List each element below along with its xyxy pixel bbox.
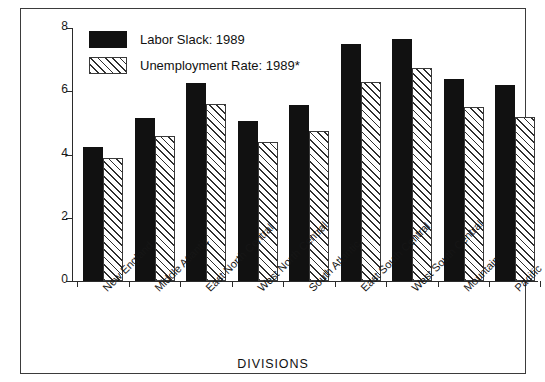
legend-label: Unemployment Rate: 1989* [140, 58, 300, 73]
diagonal-hatch-swatch [89, 57, 127, 74]
x-tick-mark [540, 281, 541, 287]
bar-unemployment-rate [103, 158, 123, 281]
x-axis-title: DIVISIONS [21, 357, 525, 371]
x-tick-mark [335, 281, 336, 287]
category-label: East South Central [359, 286, 367, 294]
y-tick: 8 [72, 28, 73, 29]
y-tick-label: 0 [61, 273, 68, 285]
x-tick-mark [129, 281, 130, 287]
x-tick-mark [232, 281, 233, 287]
y-tick: 4 [72, 155, 73, 156]
legend-item: Labor Slack: 1989 [89, 29, 339, 50]
category-label: Middle Atlantic [153, 286, 161, 294]
cropped-caption-sliver [0, 0, 545, 7]
legend-label: Labor Slack: 1989 [140, 32, 245, 47]
x-tick-mark [283, 281, 284, 287]
y-tick: 2 [72, 218, 73, 219]
bar-unemployment-rate [464, 107, 484, 281]
chart-legend: Labor Slack: 1989Unemployment Rate: 1989… [89, 29, 339, 81]
y-tick-label: 4 [61, 147, 68, 159]
bar-unemployment-rate [412, 68, 432, 281]
category-label: Pacific [513, 286, 521, 294]
bar-chart-figure: 02468 New EnglandMiddle AtlanticEast Nor… [0, 0, 545, 382]
bar-labor-slack [83, 147, 103, 281]
category-label: West North Central [256, 286, 264, 294]
category-label: New England [101, 286, 109, 294]
solid-black-swatch [89, 31, 127, 48]
bar-unemployment-rate [206, 104, 226, 281]
y-tick: 6 [72, 91, 73, 92]
bar-unemployment-rate [309, 131, 329, 281]
bar-unemployment-rate [515, 117, 535, 281]
y-tick-label: 2 [61, 210, 68, 222]
y-tick-label: 6 [61, 83, 68, 95]
x-tick-mark [180, 281, 181, 287]
legend-item: Unemployment Rate: 1989* [89, 55, 339, 76]
category-label: West South Central [410, 286, 418, 294]
category-label: East North Central [204, 286, 212, 294]
bar-unemployment-rate [361, 82, 381, 281]
bar-group [341, 28, 381, 281]
x-tick-mark [438, 281, 439, 287]
x-tick-mark [77, 281, 78, 287]
category-label: South Atlantic [307, 286, 315, 294]
category-label: Mountain [462, 286, 470, 294]
figure-border: 02468 New EnglandMiddle AtlanticEast Nor… [20, 8, 526, 374]
bar-unemployment-rate [155, 136, 175, 281]
y-tick: 0 [72, 281, 73, 282]
bar-unemployment-rate [258, 142, 278, 281]
bar-labor-slack [495, 85, 515, 281]
x-tick-mark [386, 281, 387, 287]
y-tick-label: 8 [61, 20, 68, 32]
x-tick-mark [489, 281, 490, 287]
bar-group [495, 28, 535, 281]
